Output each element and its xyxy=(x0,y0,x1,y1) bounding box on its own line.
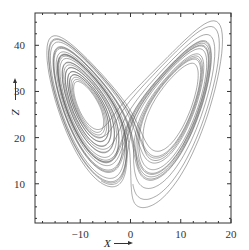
axis-ticks xyxy=(35,13,231,223)
axes-frame xyxy=(35,13,231,223)
x-tick-label: −10 xyxy=(72,229,89,240)
y-tick-label: 10 xyxy=(14,178,25,189)
lorenz-trajectory xyxy=(47,21,223,208)
z-axis-title: Z xyxy=(10,82,22,122)
y-tick-label: 20 xyxy=(14,132,25,143)
x-tick-label: 0 xyxy=(128,229,134,240)
y-tick-label: 40 xyxy=(14,40,25,51)
x-axis-arrow-icon xyxy=(114,243,130,244)
x-axis-label: X xyxy=(104,238,111,249)
x-tick-label: 20 xyxy=(226,229,237,240)
x-tick-label: 10 xyxy=(175,229,186,240)
chart-plot-area xyxy=(0,0,249,250)
trajectory-path xyxy=(47,21,223,208)
z-axis-arrow-icon xyxy=(15,82,16,100)
z-axis-label: Z xyxy=(10,106,22,118)
